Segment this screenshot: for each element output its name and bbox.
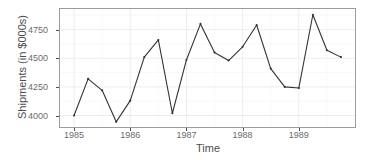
- x-tick-label: 1986: [110, 130, 150, 140]
- x-tick-label: 1988: [223, 130, 263, 140]
- y-tick-label: 4500: [0, 53, 52, 63]
- y-tick-label: 4250: [0, 82, 52, 92]
- x-tick-label: 1987: [166, 130, 206, 140]
- series-plot-area: [60, 9, 355, 127]
- data-point: [143, 56, 145, 58]
- data-point: [129, 100, 131, 102]
- y-tick-label: 4750: [0, 25, 52, 35]
- data-point: [101, 89, 103, 91]
- data-point: [171, 112, 173, 114]
- line-chart: Shipments (in $000s) 4000425045004750 19…: [0, 0, 369, 160]
- data-point: [87, 78, 89, 80]
- data-point: [185, 59, 187, 61]
- data-point: [326, 49, 328, 51]
- data-point: [284, 86, 286, 88]
- x-axis-title: Time: [59, 141, 357, 155]
- data-point: [157, 39, 159, 41]
- x-tick-label: 1985: [54, 130, 94, 140]
- data-point: [242, 46, 244, 48]
- data-point: [228, 60, 230, 62]
- data-point: [213, 51, 215, 53]
- data-point: [270, 68, 272, 70]
- data-point: [73, 114, 75, 116]
- data-point: [298, 87, 300, 89]
- plot-panel: [59, 8, 356, 128]
- x-tick-label: 1989: [279, 130, 319, 140]
- series-line-shipments: [74, 15, 341, 122]
- data-point: [340, 56, 342, 58]
- data-point: [312, 14, 314, 16]
- data-point: [115, 121, 117, 123]
- data-point: [199, 23, 201, 25]
- data-point: [256, 24, 258, 26]
- y-tick-label: 4000: [0, 111, 52, 121]
